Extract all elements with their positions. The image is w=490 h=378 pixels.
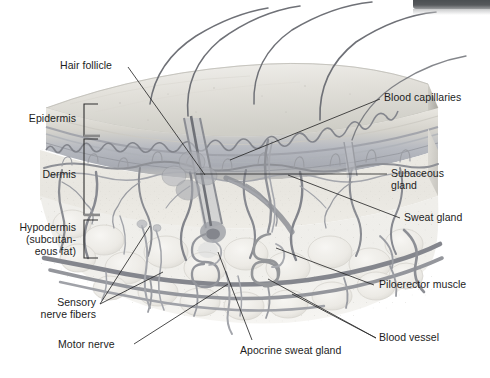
callout-piloerector-muscle: Piloerector muscle: [379, 278, 466, 291]
callout-subaceous-gland-line1: Subaceous: [391, 167, 444, 180]
callout-sensory-nerve-fibers-line1: Sensory: [14, 296, 96, 309]
callout-hair-follicle: Hair follicle: [60, 59, 112, 72]
figure-canvas: Epidermis Dermis Hypodermis (subcutan- e…: [0, 0, 490, 378]
layer-label-hypodermis-line1: Hypodermis: [2, 221, 76, 234]
top-right-dark-bar: [413, 0, 490, 9]
top-right-dark-bar-shadow: [413, 9, 490, 15]
layer-label-epidermis: Epidermis: [2, 112, 76, 125]
callout-apocrine-sweat-gland: Apocrine sweat gland: [240, 344, 341, 357]
layer-label-dermis: Dermis: [2, 168, 76, 181]
callout-subaceous-gland-line2: gland: [391, 179, 417, 192]
layer-label-hypodermis-line3: eous fat): [2, 245, 76, 258]
layer-label-hypodermis-line2: (subcutan-: [2, 233, 76, 246]
callout-sweat-gland: Sweat gland: [404, 211, 462, 224]
callout-motor-nerve: Motor nerve: [58, 338, 115, 351]
callout-blood-capillaries: Blood capillaries: [384, 91, 461, 104]
callout-blood-vessel: Blood vessel: [379, 331, 439, 344]
callout-sensory-nerve-fibers-line2: nerve fibers: [14, 308, 96, 321]
skin-block: [38, 63, 442, 334]
